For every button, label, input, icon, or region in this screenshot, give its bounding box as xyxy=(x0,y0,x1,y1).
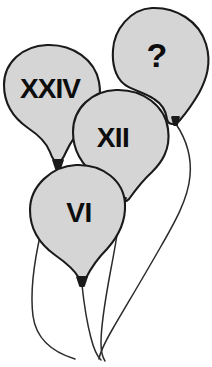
balloon-xii-label: XII xyxy=(97,122,130,153)
balloon-vi-label: VI xyxy=(66,197,91,228)
balloon-puzzle-figure: ? XXIV XII VI xyxy=(0,0,212,367)
balloon-question-knot xyxy=(172,117,179,125)
balloons-illustration: ? XXIV XII VI xyxy=(0,0,212,367)
balloon-xxiv-label: XXIV xyxy=(20,73,81,104)
balloon-question-label: ? xyxy=(147,36,168,74)
